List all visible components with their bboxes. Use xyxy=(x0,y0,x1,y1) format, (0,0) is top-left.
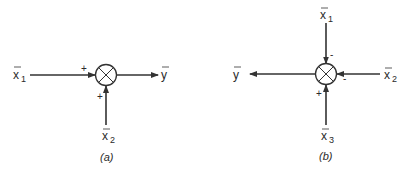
svg-text:x: x xyxy=(320,8,326,22)
svg-text:1: 1 xyxy=(21,74,26,84)
sign-x1-b: - xyxy=(330,49,333,60)
input-x1-label-b: x 1 xyxy=(320,8,333,24)
diagram-a: x 1 + y + x 2 (a) xyxy=(13,63,169,163)
svg-text:x: x xyxy=(384,68,390,82)
caption-b: (b) xyxy=(319,150,333,162)
sign-x2-b: - xyxy=(343,73,346,84)
svg-text:x: x xyxy=(102,129,108,143)
summing-junction-diagrams: x 1 + y + x 2 (a) x 1 xyxy=(0,0,411,176)
svg-text:x: x xyxy=(321,129,327,143)
sign-x1-a: + xyxy=(81,63,87,74)
caption-a: (a) xyxy=(100,151,114,163)
svg-text:1: 1 xyxy=(328,14,333,24)
summing-junction-b xyxy=(316,64,337,85)
input-x2-label-b: x 2 xyxy=(384,68,397,84)
diagram-b: x 1 - y - x 2 + x 3 xyxy=(233,8,397,162)
output-y-label-a: y xyxy=(161,67,169,82)
svg-text:2: 2 xyxy=(392,74,397,84)
svg-text:2: 2 xyxy=(110,135,115,145)
input-x2-label-a: x 2 xyxy=(102,129,115,145)
svg-text:x: x xyxy=(13,68,19,82)
sign-x2-a: + xyxy=(97,91,103,102)
svg-text:y: y xyxy=(161,68,167,82)
svg-text:3: 3 xyxy=(329,135,334,145)
summing-junction-a xyxy=(96,65,117,86)
input-x1-label-a: x 1 xyxy=(13,67,26,84)
svg-text:y: y xyxy=(233,68,239,82)
input-x3-label-b: x 3 xyxy=(321,129,334,145)
output-y-label-b: y xyxy=(233,67,241,82)
sign-x3-b: + xyxy=(316,88,322,99)
